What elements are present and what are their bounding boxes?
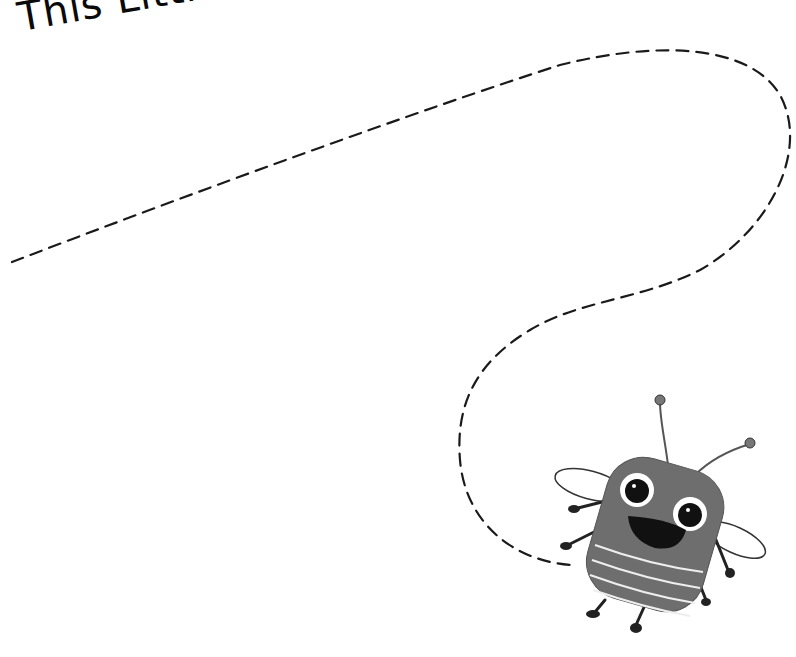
bee-icon <box>0 0 796 657</box>
activity-page: This Little Tiger <box>0 0 796 657</box>
